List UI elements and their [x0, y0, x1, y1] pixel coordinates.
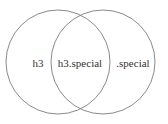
region-label-h3-only: h3: [33, 57, 45, 69]
venn-diagram: h3 h3.special .special: [0, 0, 168, 124]
region-label-intersection: h3.special: [58, 57, 102, 69]
region-label-special-only: .special: [116, 57, 149, 69]
